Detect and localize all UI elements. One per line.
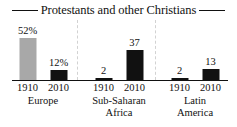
axis-group-europe: 1910 2010 Europe: [12, 82, 74, 107]
group-divider-1: [77, 20, 78, 80]
year-label-1910: 1910: [88, 82, 119, 94]
year-label-2010: 2010: [195, 82, 226, 94]
bar-value-label: 13: [205, 56, 216, 67]
axis-group-sub-saharan-africa: 1910 2010 Sub-Saharan Africa: [88, 82, 150, 118]
title-left-rule: [12, 10, 38, 11]
year-tick-labels: 1910 2010: [88, 82, 150, 94]
page-title: Protestants and other Christians: [41, 3, 196, 17]
axis-group-latin-america: 1910 2010 Latin America: [164, 82, 226, 118]
bar-value-label: 52%: [18, 25, 37, 36]
bar-value-label: 37: [129, 37, 140, 48]
region-label-europe: Europe: [12, 95, 74, 107]
bar-group-sub-saharan-africa: 2 37: [88, 20, 150, 80]
bar-slot-latin-1910: 2: [164, 20, 195, 80]
chart-title-row: Protestants and other Christians: [0, 3, 237, 17]
bar-slot-africa-1910: 2: [88, 20, 119, 80]
group-divider-2: [155, 20, 156, 80]
plot-area: 52% 12% 2 37 2: [0, 20, 237, 81]
bar-value-label: 12%: [49, 57, 68, 68]
x-axis-line: [12, 80, 228, 81]
region-label-latin-america: Latin America: [164, 95, 226, 118]
title-right-rule: [199, 10, 225, 11]
year-label-1910: 1910: [164, 82, 195, 94]
year-tick-labels: 1910 2010: [12, 82, 74, 94]
year-label-1910: 1910: [12, 82, 43, 94]
bar-africa-2010: [126, 50, 143, 80]
bar-europe-1910: [19, 38, 36, 80]
bar-value-label: 2: [101, 65, 106, 76]
year-label-2010: 2010: [119, 82, 150, 94]
bar-slot-europe-1910: 52%: [12, 20, 43, 80]
bar-group-latin-america: 2 13: [164, 20, 226, 80]
region-label-sub-saharan-africa: Sub-Saharan Africa: [88, 95, 150, 118]
bar-europe-2010: [50, 70, 67, 80]
year-label-2010: 2010: [43, 82, 74, 94]
bar-group-europe: 52% 12%: [12, 20, 74, 80]
chart-container: Protestants and other Christians 52% 12%…: [0, 0, 237, 127]
bar-slot-africa-2010: 37: [119, 20, 150, 80]
bar-slot-europe-2010: 12%: [43, 20, 74, 80]
x-axis-labels: 1910 2010 Europe 1910 2010 Sub-Saharan A…: [0, 82, 237, 127]
bar-value-label: 2: [177, 65, 182, 76]
bar-latin-2010: [202, 69, 219, 80]
bar-slot-latin-2010: 13: [195, 20, 226, 80]
year-tick-labels: 1910 2010: [164, 82, 226, 94]
